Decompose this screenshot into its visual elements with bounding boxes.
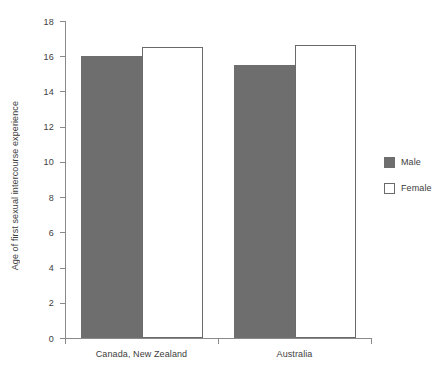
bar-female-1: [295, 45, 356, 338]
x-tick-mark-origin: [65, 338, 66, 344]
y-tick-label: 8: [49, 193, 54, 203]
x-axis-category-label: Australia: [277, 349, 313, 359]
bar-male-0: [81, 56, 142, 338]
legend-swatch-male-icon: [384, 157, 395, 168]
legend-item-female[interactable]: Female: [384, 181, 432, 195]
legend-item-male[interactable]: Male: [384, 155, 432, 169]
chart-legend: MaleFemale: [384, 155, 432, 207]
x-tick-mark: [371, 338, 372, 344]
y-tick-label: 10: [44, 157, 54, 167]
y-tick-label: 18: [44, 17, 54, 27]
y-axis-title-text: Age of first sexual intercourse experien…: [10, 101, 20, 270]
legend-label: Male: [401, 157, 421, 167]
y-tick-label: 0: [49, 334, 54, 344]
x-axis-category-label: Canada, New Zealand: [96, 349, 187, 359]
bar-chart: Age of first sexual intercourse experien…: [0, 0, 442, 371]
bar-male-1: [234, 65, 295, 338]
y-tick-label: 4: [49, 263, 54, 273]
legend-label: Female: [401, 183, 432, 193]
y-tick-label: 12: [44, 122, 54, 132]
x-tick-mark: [218, 338, 219, 344]
y-tick-label: 6: [49, 228, 54, 238]
legend-swatch-female-icon: [384, 183, 395, 194]
y-tick-label: 2: [49, 298, 54, 308]
y-tick-label: 16: [44, 52, 54, 62]
y-axis-title: Age of first sexual intercourse experien…: [10, 0, 20, 371]
plot-area: [65, 21, 371, 338]
bar-female-0: [142, 47, 203, 338]
y-tick-label: 14: [44, 87, 54, 97]
